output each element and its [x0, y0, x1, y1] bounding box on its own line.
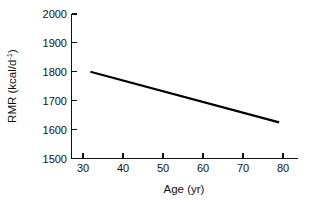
x-tick-label-70: 70 [237, 162, 249, 174]
x-tick-label-30: 30 [77, 162, 89, 174]
y-tick-label-1800: 1800 [43, 66, 67, 78]
x-tick-label-80: 80 [277, 162, 289, 174]
rmr-vs-age-line-chart: 1500 1600 1700 1800 1900 2000 30 40 50 6… [0, 0, 313, 202]
x-tick-label-40: 40 [117, 162, 129, 174]
x-axis-title: Age (yr) [164, 183, 205, 195]
chart-figure: 1500 1600 1700 1800 1900 2000 30 40 50 6… [0, 0, 313, 202]
svg-text:RMR (kcal/d-1): RMR (kcal/d-1) [5, 49, 18, 123]
x-tick-label-50: 50 [157, 162, 169, 174]
y-axis-title: RMR (kcal/d-1) [5, 49, 18, 123]
y-axis-title-main: RMR (kcal/d [6, 60, 18, 123]
y-tick-label-1900: 1900 [43, 37, 67, 49]
y-tick-label-1600: 1600 [43, 124, 67, 136]
y-tick-label-1700: 1700 [43, 95, 67, 107]
y-tick-label-1500: 1500 [43, 153, 67, 165]
x-tick-label-60: 60 [197, 162, 209, 174]
y-axis-title-superscript: -1 [5, 53, 14, 60]
y-axis-title-paren: ) [6, 49, 18, 53]
y-tick-label-2000: 2000 [43, 8, 67, 20]
